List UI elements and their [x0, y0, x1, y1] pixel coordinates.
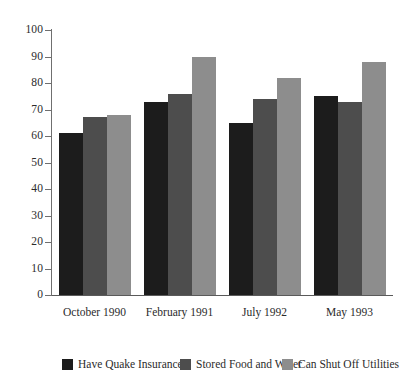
- y-axis-tick: [45, 295, 52, 296]
- y-axis-tick-label-text: 100: [3, 24, 43, 36]
- y-axis-tick-label: 40: [0, 183, 43, 195]
- y-axis-tick-label-text: 10: [3, 263, 43, 275]
- bar-3-2: [362, 62, 386, 295]
- bar-3-0: [314, 96, 338, 295]
- y-axis-tick-label-text: 0: [3, 289, 43, 301]
- legend-label: Can Shut Off Utilities: [298, 358, 399, 371]
- y-axis-tick: [45, 57, 52, 58]
- bar-1-0: [144, 102, 168, 295]
- y-axis-tick-label-text: 80: [3, 77, 43, 89]
- legend-swatch-icon: [282, 359, 293, 370]
- bar-1-1: [168, 94, 192, 295]
- y-axis-tick-label: 0: [0, 289, 43, 301]
- bar-0-1: [83, 117, 107, 295]
- legend-swatch-icon: [62, 359, 73, 370]
- y-axis-tick: [45, 110, 52, 111]
- y-axis-tick-label-text: 20: [3, 236, 43, 248]
- legend-item-0[interactable]: Have Quake Insurance: [62, 356, 183, 372]
- x-axis-category-label: May 1993: [295, 305, 405, 319]
- y-axis-tick: [45, 136, 52, 137]
- legend-swatch-icon: [180, 359, 191, 370]
- y-axis-tick-label-text: 60: [3, 130, 43, 142]
- y-axis-tick-label: 80: [0, 77, 43, 89]
- bar-2-0: [229, 123, 253, 295]
- plot-area: [52, 30, 392, 295]
- y-axis-tick: [45, 242, 52, 243]
- y-axis-tick-label: 50: [0, 157, 43, 169]
- y-axis-tick-label: 70: [0, 104, 43, 116]
- y-axis-tick-label: 90: [0, 51, 43, 63]
- legend-label: Have Quake Insurance: [78, 358, 183, 371]
- y-axis-tick: [45, 83, 52, 84]
- y-axis-tick: [45, 189, 52, 190]
- x-axis-line: [51, 295, 393, 296]
- y-axis-tick-label-text: 70: [3, 104, 43, 116]
- legend-item-2[interactable]: Can Shut Off Utilities: [282, 356, 399, 372]
- bar-2-1: [253, 99, 277, 295]
- y-axis-tick: [45, 163, 52, 164]
- y-axis-tick: [45, 30, 52, 31]
- bar-3-1: [338, 102, 362, 295]
- y-axis-tick: [45, 216, 52, 217]
- chart-legend: Have Quake InsuranceStored Food and Wate…: [0, 356, 417, 376]
- bar-1-2: [192, 57, 216, 296]
- y-axis-tick-label-text: 90: [3, 51, 43, 63]
- bar-2-2: [277, 78, 301, 295]
- bar-0-0: [59, 133, 83, 295]
- y-axis-tick-label: 20: [0, 236, 43, 248]
- y-axis-tick-label-text: 30: [3, 210, 43, 222]
- bar-chart: 0102030405060708090100 October 1990Febru…: [0, 0, 417, 384]
- bar-0-2: [107, 115, 131, 295]
- y-axis-tick-label: 100: [0, 24, 43, 36]
- y-axis-tick: [45, 269, 52, 270]
- y-axis-tick-label: 60: [0, 130, 43, 142]
- y-axis-tick-label: 10: [0, 263, 43, 275]
- y-axis-tick-label: 30: [0, 210, 43, 222]
- y-axis-tick-label-text: 50: [3, 157, 43, 169]
- y-axis-tick-label-text: 40: [3, 183, 43, 195]
